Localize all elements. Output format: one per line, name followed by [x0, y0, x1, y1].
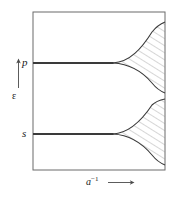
arrow-right-icon: [108, 180, 135, 184]
x-axis-label: a−1: [86, 177, 98, 187]
p-level-label: p: [22, 57, 28, 68]
energy-band-diagram: p s ε a−1: [0, 0, 172, 200]
plot-canvas: [0, 0, 172, 200]
energy-axis-label: ε: [12, 91, 16, 101]
s-level-label: s: [22, 128, 26, 139]
x-axis-label-exponent: −1: [91, 175, 98, 183]
arrow-up-icon: [16, 59, 21, 89]
